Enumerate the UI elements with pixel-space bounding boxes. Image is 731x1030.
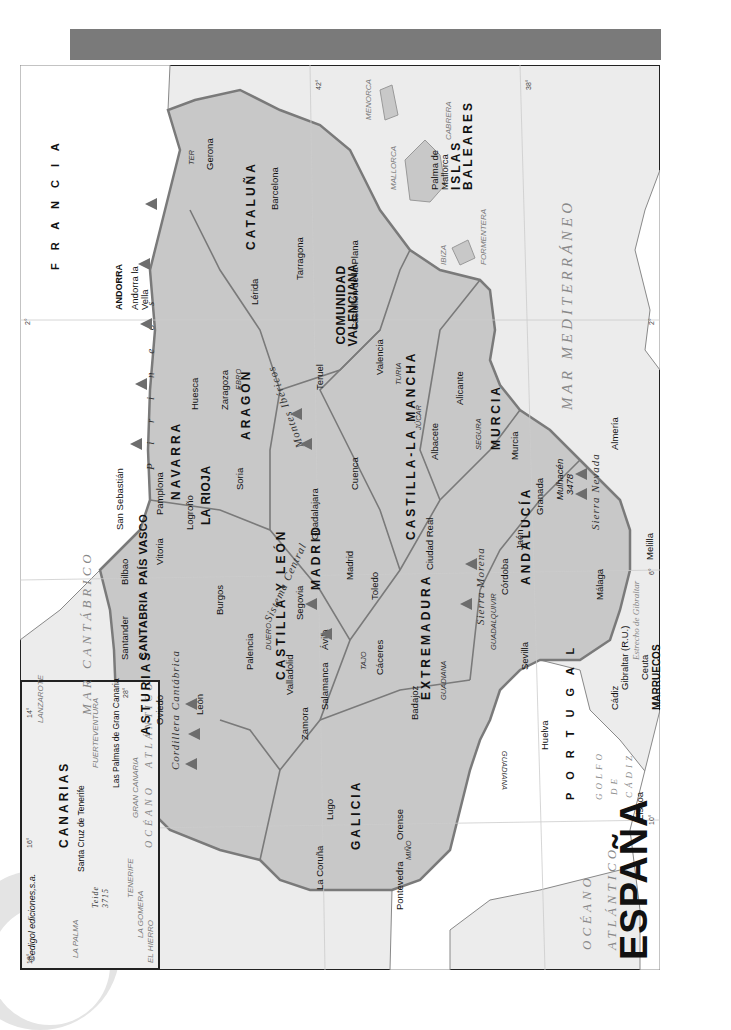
lon-2e-label: 2° [24,318,31,325]
city-santa-cruz[interactable]: Santa Cruz de Tenerife [77,785,86,872]
city-valladolid[interactable]: Valladolid [285,655,295,696]
city-pontevedra[interactable]: Pontevedra [395,861,405,910]
country-portugal: P O R T U G A L [565,643,576,800]
mountain-icon [135,378,147,390]
island-lanzarote: LANZAROTE [37,675,45,723]
sea-cantabrico: MAR CANTÁBRICO [80,550,93,715]
city-malaga[interactable]: Málaga [595,569,605,600]
city-soria[interactable]: Soria [235,468,245,490]
city-oviedo[interactable]: Oviedo [155,695,165,725]
inset-lon-16: 16° [26,837,33,848]
city-las-palmas[interactable]: Las Palmas de Gran Canaria [112,678,121,788]
city-lisboa[interactable]: Lisboa [635,792,645,820]
lon-6-label: 6° [648,568,655,575]
region-murcia[interactable]: MURCIA [490,384,502,450]
mountain-icon [188,728,200,740]
region-la-rioja[interactable]: LA RIOJA [200,465,212,525]
region-asturias[interactable]: ASTURIAS [140,650,152,735]
city-burgos[interactable]: Burgos [215,585,225,615]
region-pais-vasco[interactable]: PAÍS VASCO [138,514,149,585]
city-lerida[interactable]: Lérida [250,279,260,305]
inset-lat-28: 28° [122,687,129,698]
city-jaen[interactable]: Jaén [515,529,525,550]
city-orense[interactable]: Orense [395,809,405,840]
region-cantabria[interactable]: CANTABRIA [138,591,149,660]
region-islas-baleares[interactable]: ISLAS BALEARES [450,110,474,190]
city-vitoria[interactable]: Vitoria [155,538,165,565]
city-almeria[interactable]: Almería [610,417,620,450]
island-formentera: FORMENTERA [480,209,488,265]
sea-oceano: OCÉANO [580,874,593,950]
city-bilbao[interactable]: Bilbao [120,559,130,585]
city-huelva[interactable]: Huelva [540,720,550,750]
mountain-icon [575,468,587,480]
mountain-icon [145,198,157,210]
city-madrid[interactable]: Madrid [345,551,355,580]
city-huesca[interactable]: Huesca [190,378,200,410]
city-murcia[interactable]: Murcia [510,431,520,460]
region-extremadura[interactable]: EXTREMADURA [420,574,432,700]
city-zaragoza[interactable]: Zaragoza [220,370,230,410]
city-gibraltar[interactable]: Gibraltar (R.U.) [620,626,630,690]
header-bar [70,29,661,60]
city-tarragona[interactable]: Tarragona [295,237,305,280]
city-logrono[interactable]: Logroño [185,495,195,530]
sea-golfo: GOLFO [595,750,604,800]
city-sevilla[interactable]: Sevilla [520,642,530,670]
peak-teide: Teide [92,886,100,908]
country-marruecos: MARRUECOS [652,644,662,710]
city-pamplona[interactable]: Pamplona [155,472,165,515]
city-granada[interactable]: Granada [535,478,545,515]
city-salamanca[interactable]: Salamanca [320,662,330,710]
city-guadalajara[interactable]: Guadalajara [310,488,320,540]
island-cabrera: CABRERA [445,101,453,140]
city-segovia[interactable]: Segovia [295,586,305,620]
mountain-icon [320,628,332,640]
river-guadalquivir: GUADALQUIVIR [490,593,498,650]
city-ceuta[interactable]: Ceuta [640,655,650,680]
river-turia: TURIA [395,363,403,386]
spain-map[interactable]: CANARIAS Santa Cruz de Tenerife Las Palm… [20,65,660,970]
river-segura: SEGURA [475,418,483,450]
sea-mediterraneo: MAR MEDITERRÁNEO [560,199,575,410]
city-melilla[interactable]: Melilla [645,533,655,560]
region-castilla-la-mancha[interactable]: CASTILLA-LA MANCHA [405,350,417,540]
city-lugo[interactable]: Lugo [325,799,335,820]
region-navarra[interactable]: NAVARRA [170,421,182,500]
city-la-coruna[interactable]: La Coruña [315,846,325,890]
city-cordoba[interactable]: Córdoba [500,559,510,595]
city-valencia[interactable]: Valencia [375,339,385,375]
city-santander[interactable]: Santander [120,616,130,660]
region-galicia[interactable]: GALICIA [350,780,362,850]
copyright: ©edigol ediciones,s.a. [28,874,37,962]
country-francia: F R A N C I A [50,138,61,270]
city-palencia[interactable]: Palencia [245,634,255,670]
lon-2w-label: 2° [648,318,655,325]
lat-42-label: 42° [315,79,322,90]
mountain-icon [300,438,312,450]
lon-10-label: 10° [648,814,655,825]
island-el-hierro: EL HIERRO [147,920,155,963]
city-caceres[interactable]: Cáceres [375,640,385,675]
mountain-icon [460,598,472,610]
city-badajoz[interactable]: Badajoz [410,686,420,720]
city-zamora[interactable]: Zamora [300,707,310,740]
sea-atlantico: ATLÁNTICO [605,846,618,950]
island-la-gomera: LA GOMERA [137,891,145,938]
city-san-sebastian[interactable]: San Sebastián [115,468,125,530]
mountain-icon [185,698,197,710]
city-toledo[interactable]: Toledo [370,572,380,600]
river-duero: DUERO [265,623,273,650]
city-ciudad-real[interactable]: Ciudad Real [425,518,435,570]
city-gerona[interactable]: Gerona [205,138,215,170]
region-cataluna[interactable]: CATALUÑA [245,161,257,250]
city-alicante[interactable]: Alicante [455,371,465,405]
city-castellon[interactable]: Castellón de la Plana [350,240,360,330]
inset-lon-14: 14° [26,707,33,718]
city-cuenca[interactable]: Cuenca [350,457,360,490]
island-menorca: MENORCA [365,79,373,120]
city-barcelona[interactable]: Barcelona [270,167,280,210]
city-teruel[interactable]: Teruel [315,364,325,390]
city-albacete[interactable]: Albacete [430,423,440,460]
island-gran-canaria: GRAN CANARIA [132,757,140,818]
